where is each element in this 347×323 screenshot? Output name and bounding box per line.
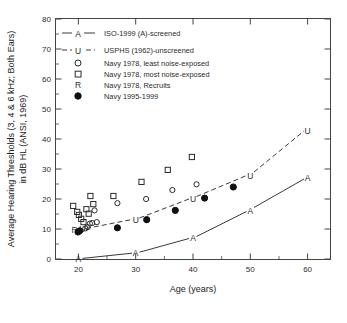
x-tick-label: 50 bbox=[246, 265, 255, 274]
y-tick-label: 40 bbox=[42, 135, 51, 144]
legend-label: Navy 1978, least noise-exposed bbox=[104, 59, 209, 68]
filled-circle-marker bbox=[230, 184, 236, 190]
filled-circle-marker bbox=[202, 195, 208, 201]
marker-letter-U: U bbox=[247, 171, 253, 181]
y-tick-label: 10 bbox=[42, 225, 51, 234]
chart-page: 0 10 20 30 40 50 60 70 80 bbox=[0, 0, 347, 323]
x-axis-title: Age (years) bbox=[170, 284, 217, 294]
y-axis-title-line2: in dB HL (ANSI, 1969) bbox=[18, 95, 28, 184]
y-axis-tick-labels: 0 10 20 30 40 50 60 70 80 bbox=[42, 15, 51, 264]
hearing-threshold-scatter-chart: 0 10 20 30 40 50 60 70 80 bbox=[0, 0, 347, 323]
marker-letter-U: U bbox=[133, 215, 139, 225]
legend-marker-letter-U: U bbox=[75, 46, 81, 56]
legend-label: ISO-1999 (A)-screened bbox=[104, 29, 180, 38]
x-tick-label: 40 bbox=[189, 265, 198, 274]
marker-letter-A: A bbox=[247, 206, 253, 216]
filled-circle-marker bbox=[114, 225, 120, 231]
x-tick-label: 60 bbox=[303, 265, 312, 274]
marker-letter-A: A bbox=[133, 248, 139, 258]
x-tick-label: 20 bbox=[74, 265, 83, 274]
legend-label: Navy 1978, most noise-exposed bbox=[104, 70, 210, 79]
y-tick-label: 20 bbox=[42, 195, 51, 204]
y-tick-label: 60 bbox=[42, 75, 51, 84]
y-tick-label: 80 bbox=[42, 15, 51, 24]
y-tick-label: 30 bbox=[42, 165, 51, 174]
y-tick-label: 0 bbox=[47, 255, 52, 264]
legend-label: Navy 1978, Recruits bbox=[104, 81, 171, 90]
filled-circle-marker bbox=[144, 217, 150, 223]
y-tick-label: 50 bbox=[42, 105, 51, 114]
legend-label: Navy 1995-1999 bbox=[104, 92, 158, 101]
legend-label: USPHS (1962)-unscreened bbox=[104, 46, 194, 55]
marker-letter-U: U bbox=[305, 126, 311, 136]
x-tick-label: 30 bbox=[131, 265, 140, 274]
marker-letter-A: A bbox=[190, 233, 196, 243]
y-axis-title-line1: Average Hearing Thresholds (3, 4 & 6 kHz… bbox=[6, 31, 16, 247]
filled-circle-marker bbox=[172, 207, 178, 213]
legend-filled-circle-icon bbox=[75, 93, 81, 99]
legend-marker-letter-R: R bbox=[75, 80, 81, 90]
y-tick-label: 70 bbox=[42, 45, 51, 54]
legend-item-usphs[interactable]: U USPHS (1962)-unscreened bbox=[62, 44, 194, 56]
marker-letter-A: A bbox=[76, 254, 82, 264]
filled-circle-marker bbox=[77, 228, 83, 234]
marker-letter-U: U bbox=[190, 194, 196, 204]
marker-letter-A: A bbox=[305, 173, 311, 183]
legend-item-iso1999[interactable]: A ISO-1999 (A)-screened bbox=[62, 27, 180, 39]
legend-marker-letter-A: A bbox=[75, 29, 81, 39]
